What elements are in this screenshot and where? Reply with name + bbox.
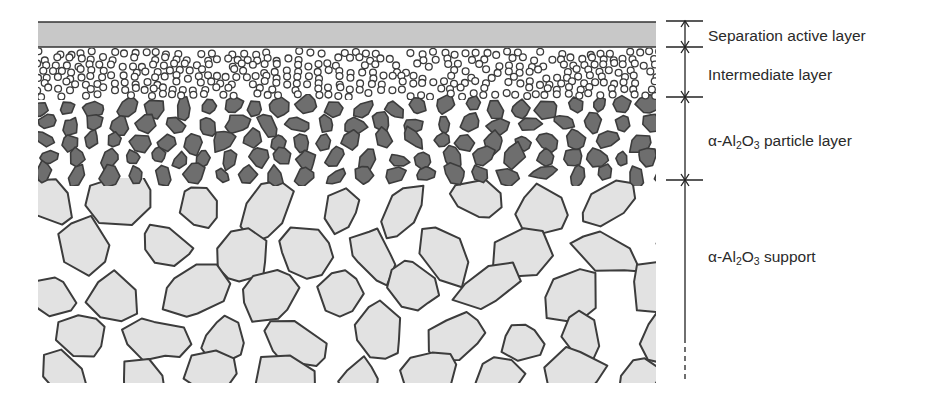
intermediate-circles bbox=[34, 48, 663, 101]
support-particles bbox=[25, 173, 709, 405]
alumina-particles bbox=[34, 93, 690, 190]
membrane-cross-section-diagram bbox=[0, 0, 942, 405]
label-support-layer: α-Al2O3 support bbox=[708, 249, 816, 265]
thickness-scale-bar bbox=[666, 21, 703, 383]
label-intermediate-layer: Intermediate layer bbox=[708, 67, 832, 83]
label-separation-active-layer: Separation active layer bbox=[708, 28, 866, 44]
separation-active-layer-band bbox=[38, 22, 656, 47]
label-particle-layer: α-Al2O3 particle layer bbox=[708, 133, 852, 149]
